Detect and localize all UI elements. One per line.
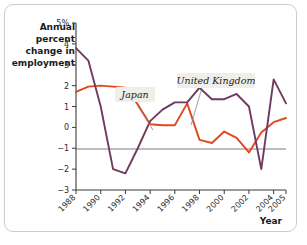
y-tick-label: −1 [57, 144, 69, 153]
y-tick-label: 2 [64, 82, 69, 91]
annotation-japan: Japan [115, 87, 155, 130]
x-tick-group: 1988199019921994199619982000200220042005 [57, 190, 288, 214]
x-tick-label: 1996 [155, 193, 176, 214]
y-tick-label: 0 [64, 123, 69, 132]
japan-leader-line [137, 105, 153, 130]
axes [76, 23, 286, 190]
japan-label: Japan [119, 89, 148, 100]
series-line-united-kingdom [76, 48, 286, 173]
united-kingdom-label: United Kingdom [177, 75, 256, 86]
y-tick-label: 4 [64, 40, 69, 49]
x-tick-label: 1990 [81, 193, 102, 214]
y-tick-label: 3 [64, 61, 69, 70]
x-axis-title: Year [259, 216, 283, 226]
y-axis-title-line-2: percent [36, 34, 76, 44]
employment-chart: Annual percent change in employment 5%43… [5, 5, 298, 233]
x-tick-label: 2000 [205, 193, 226, 214]
y-tick-label: 1 [64, 103, 69, 112]
y-tick-label: −3 [57, 186, 69, 195]
series-group [76, 48, 286, 173]
y-tick-label: −2 [57, 165, 69, 174]
y-tick-label: 5% [56, 19, 69, 28]
x-tick-label: 1998 [180, 193, 201, 214]
x-tick-label: 1992 [106, 193, 127, 214]
x-tick-label: 1988 [57, 193, 78, 214]
chart-card: Annual percent change in employment 5%43… [4, 4, 297, 232]
x-tick-label: 2002 [230, 193, 251, 214]
x-tick-label: 1994 [131, 193, 152, 214]
